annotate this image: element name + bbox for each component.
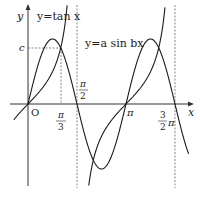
svg-text:2: 2	[160, 122, 166, 132]
c-label: c	[19, 42, 25, 53]
svg-text:π: π	[57, 110, 65, 120]
y-axis-label: y	[16, 10, 24, 23]
svg-text:π: π	[79, 79, 87, 89]
tick-label-pi-over-3: π 3	[56, 110, 66, 132]
y-axis-arrow-icon	[26, 4, 31, 10]
diagram: y x O c y=tan x y=a sin bx π 3 π 2 π 3 2…	[0, 0, 200, 199]
tan-curve-branch-2	[89, 7, 165, 185]
svg-text:3: 3	[58, 122, 64, 132]
svg-text:π: π	[167, 117, 175, 128]
svg-text:3: 3	[160, 110, 166, 120]
svg-text:2: 2	[80, 91, 86, 101]
sin-curve-label: y=a sin bx	[84, 37, 144, 50]
origin-label: O	[31, 107, 39, 118]
tick-label-pi: π	[126, 107, 134, 118]
x-axis-label: x	[188, 106, 195, 119]
tick-label-pi-over-2: π 2	[79, 79, 88, 101]
tan-curve-label: y=tan x	[36, 10, 81, 23]
tick-label-3pi-over-2: 3 2 π	[158, 110, 175, 132]
